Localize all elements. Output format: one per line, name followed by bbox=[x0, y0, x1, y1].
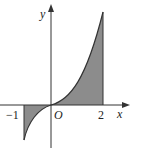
graph: y x O −1 2 bbox=[0, 0, 142, 158]
origin-label: O bbox=[54, 108, 63, 122]
y-axis-arrow-icon bbox=[48, 4, 54, 12]
shaded-region-right bbox=[51, 12, 103, 105]
shaded-region-left bbox=[24, 105, 51, 140]
x-axis-label: x bbox=[116, 107, 123, 121]
tick-label-left: −1 bbox=[6, 108, 19, 122]
y-axis-label: y bbox=[39, 7, 46, 21]
x-axis-arrow-icon bbox=[122, 102, 130, 108]
tick-label-right: 2 bbox=[98, 108, 104, 122]
